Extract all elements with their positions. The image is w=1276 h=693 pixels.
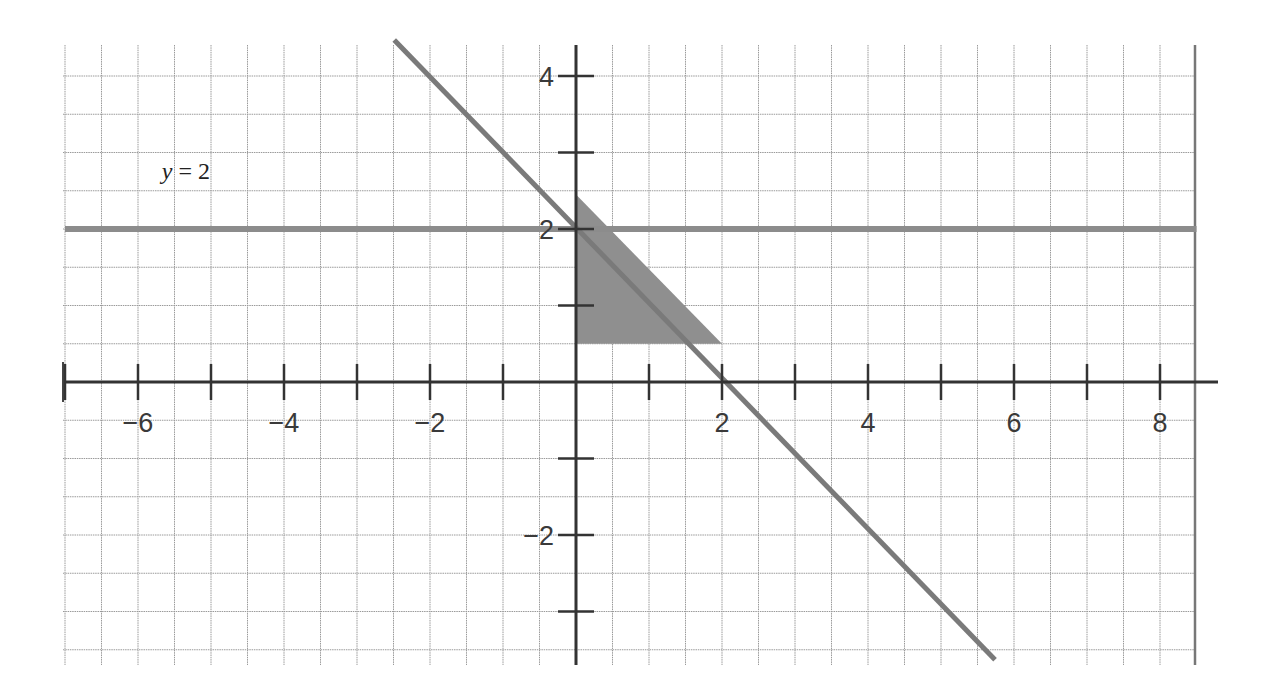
y-tick-label: −2 <box>523 521 554 551</box>
x-tick-label: −6 <box>123 408 154 438</box>
grid <box>63 45 1195 665</box>
x-tick-label: 6 <box>1006 408 1021 438</box>
shaded-triangle <box>576 195 722 344</box>
x-tick-label: 4 <box>860 408 875 438</box>
x-tick-label: −2 <box>415 408 446 438</box>
chart: −6−4−2246842−2 y = 2 <box>0 0 1276 693</box>
x-tick-label: −4 <box>269 408 300 438</box>
annotation-label: y = 2 <box>160 158 210 184</box>
x-tick-label: 2 <box>714 408 729 438</box>
series-lines <box>65 40 1197 660</box>
annotations: y = 2 <box>160 158 210 184</box>
shaded-region <box>576 195 722 344</box>
axes <box>63 45 1218 665</box>
x-tick-label: 8 <box>1152 408 1167 438</box>
y-tick-label: 4 <box>539 62 554 92</box>
y-tick-label: 2 <box>539 215 554 245</box>
